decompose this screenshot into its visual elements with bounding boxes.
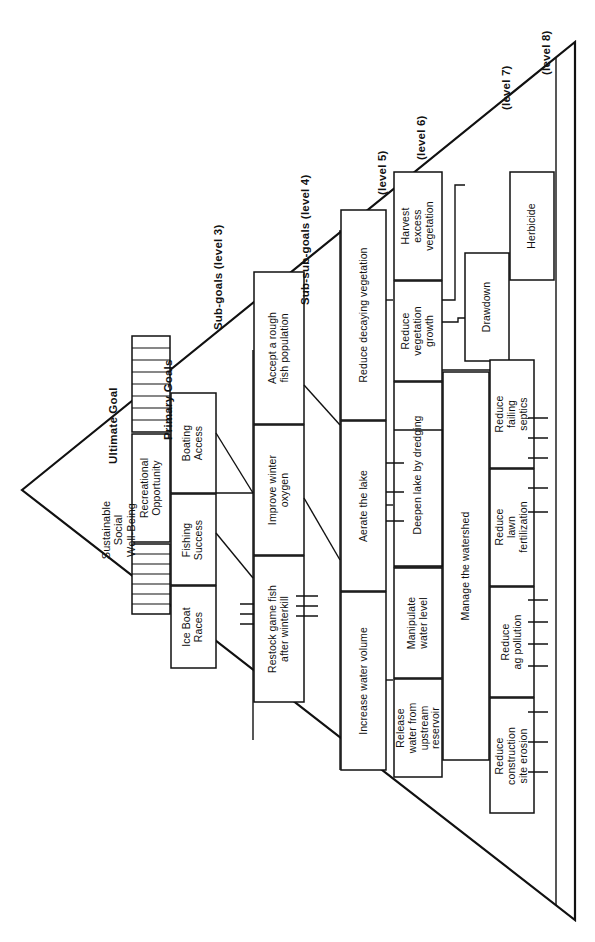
node-reduce-vegetation-growth[interactable] [394, 281, 442, 381]
node-reduce-construction-erosion[interactable] [490, 698, 534, 813]
primary-goals-hatch-lower [132, 544, 170, 614]
node-drawdown[interactable] [465, 253, 509, 361]
node-reduce-lawn-fertilization[interactable] [490, 469, 534, 586]
level3-connectors [216, 350, 253, 740]
node-recreational-opportunity[interactable] [132, 434, 170, 542]
node-improve-winter-oxygen[interactable] [254, 425, 304, 555]
primary-goals-hatch-upper [132, 336, 170, 432]
node-boating-access[interactable] [171, 393, 216, 493]
level4-connectors [304, 230, 340, 770]
node-manipulate-water-level[interactable] [394, 568, 442, 678]
node-release-water-upstream[interactable] [394, 679, 442, 777]
level5-connectors [386, 300, 393, 680]
node-deepen-lake-dredging[interactable] [394, 382, 442, 567]
node-fishing-success[interactable] [171, 494, 216, 585]
objectives-hierarchy-svg [0, 0, 595, 942]
node-reduce-ag-pollution[interactable] [490, 587, 534, 697]
diagram-canvas: Ultimate Goal Primary Goals Sub-goals (l… [0, 0, 595, 942]
node-reduce-decaying-vegetation[interactable] [341, 210, 386, 420]
node-harvest-excess-vegetation[interactable] [394, 172, 442, 280]
node-restock-game-fish[interactable] [254, 556, 304, 702]
node-aerate-the-lake[interactable] [341, 421, 386, 591]
node-manage-the-watershed[interactable] [443, 372, 489, 760]
node-ice-boat-races[interactable] [171, 586, 216, 668]
node-accept-rough-fish[interactable] [254, 272, 304, 424]
node-increase-water-volume[interactable] [341, 592, 386, 770]
node-herbicide[interactable] [510, 172, 554, 280]
node-reduce-failing-septics[interactable] [490, 360, 534, 468]
